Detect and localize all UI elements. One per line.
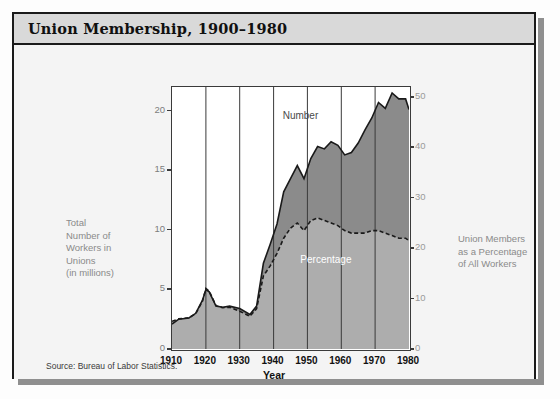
left-tick-0: 0: [139, 342, 165, 353]
series-label-number: Number: [283, 110, 319, 121]
right-tick-40: 40: [415, 140, 441, 151]
series-label-percentage: Percentage: [300, 254, 351, 265]
left-tick-15: 15: [139, 163, 165, 174]
card-shadow-right: [538, 18, 544, 385]
left-axis-label-line-4: Unions: [66, 255, 156, 268]
right-tick-20: 20: [415, 241, 441, 252]
left-tick-20: 20: [139, 104, 165, 115]
right-axis-label-line-2: as a Percentage: [458, 246, 554, 259]
right-axis-label: Union Members as a Percentage of All Wor…: [458, 233, 554, 271]
right-axis-label-line-3: of All Workers: [458, 258, 554, 271]
x-tick-1980: 1980: [388, 355, 428, 366]
right-tick-0: 0: [415, 342, 441, 353]
left-axis-label-line-3: Workers in: [66, 242, 156, 255]
plot-area: Number Percentage: [171, 86, 411, 351]
left-tick-5: 5: [139, 282, 165, 293]
right-tick-10: 10: [415, 292, 441, 303]
right-tick-30: 30: [415, 191, 441, 202]
chart-card: Union Membership, 1900–1980 Total Number…: [12, 12, 536, 379]
right-tick-50: 50: [415, 90, 441, 101]
left-axis-label-line-5: (in millions): [66, 267, 156, 280]
page-title: Union Membership, 1900–1980: [28, 20, 287, 37]
left-tick-10: 10: [139, 223, 165, 234]
plot-svg: [172, 87, 409, 349]
right-axis-label-line-1: Union Members: [458, 233, 554, 246]
title-bar: Union Membership, 1900–1980: [14, 14, 534, 45]
chart-body: Total Number of Workers in Unions (in mi…: [14, 45, 534, 379]
x-axis-title: Year: [14, 369, 534, 381]
chart-page: Union Membership, 1900–1980 Total Number…: [0, 0, 560, 399]
